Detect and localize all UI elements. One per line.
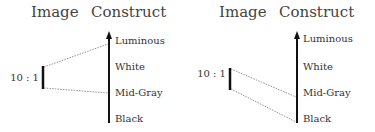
diagram-panel-left: Image Construct 10 : 1 Luminous White Mi… bbox=[0, 0, 188, 132]
arrow-up-icon bbox=[106, 31, 112, 39]
level-mid-gray: Mid-Gray bbox=[115, 87, 163, 99]
header-construct: Construct bbox=[91, 3, 166, 21]
ratio-label: 10 : 1 bbox=[9, 72, 39, 84]
level-black: Black bbox=[303, 113, 331, 125]
header-image: Image bbox=[219, 3, 267, 21]
ratio-label: 10 : 1 bbox=[196, 68, 226, 80]
level-luminous: Luminous bbox=[115, 35, 165, 47]
level-luminous: Luminous bbox=[303, 33, 353, 45]
level-mid-gray: Mid-Gray bbox=[303, 87, 351, 99]
header-image: Image bbox=[31, 3, 79, 21]
header-construct: Construct bbox=[279, 3, 354, 21]
level-black: Black bbox=[115, 113, 143, 125]
arrow-up-icon bbox=[294, 31, 300, 39]
level-white: White bbox=[303, 61, 333, 73]
diagram-panel-right: Image Construct 10 : 1 Luminous White Mi… bbox=[188, 0, 375, 132]
level-white: White bbox=[115, 61, 145, 73]
